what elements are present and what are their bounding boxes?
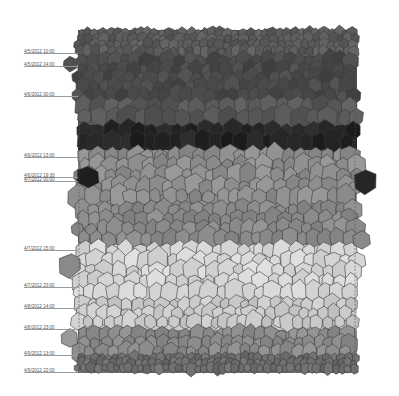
label-leader-line xyxy=(24,355,78,356)
voronoi-cell xyxy=(351,364,358,375)
voronoi-cells xyxy=(59,25,376,377)
label-leader-line xyxy=(24,329,78,330)
label-leader-line xyxy=(24,287,78,288)
voronoi-cell xyxy=(306,47,313,55)
label-leader-line xyxy=(24,96,78,97)
voronoi-cell xyxy=(323,316,333,329)
label-leader-line xyxy=(24,66,78,67)
label-leader-line xyxy=(24,372,78,373)
label-leader-line xyxy=(24,308,78,309)
voronoi-cell xyxy=(63,56,77,72)
label-leader-line xyxy=(24,157,78,158)
label-leader-line xyxy=(24,181,78,182)
label-leader-line xyxy=(24,53,78,54)
voronoi-diagram xyxy=(0,0,399,396)
label-leader-line xyxy=(24,250,78,251)
voronoi-cell xyxy=(61,329,77,348)
